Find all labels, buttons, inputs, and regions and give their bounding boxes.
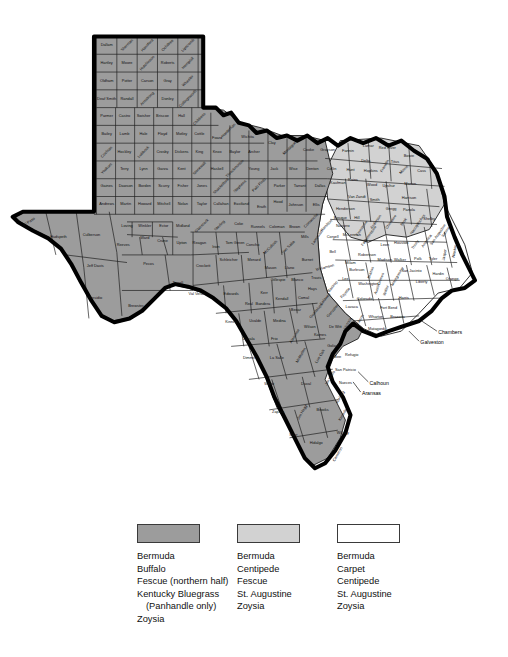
county-label: Smith xyxy=(370,197,380,202)
county-label: Henderson xyxy=(336,206,355,211)
county-label: Matagorda xyxy=(368,326,387,331)
county-label: Leon xyxy=(381,242,390,247)
county-label: Titus xyxy=(391,159,399,164)
county-label: Fannin xyxy=(342,148,354,153)
county-label: Kinney xyxy=(225,319,237,324)
calhoun-callout-label: Calhoun xyxy=(370,380,389,386)
county-label: Wood xyxy=(367,182,377,187)
list-item: Zoysia xyxy=(337,600,457,613)
county-label: Culberson xyxy=(83,232,101,237)
county-label: Winkler xyxy=(138,223,152,228)
county-label: Lynn xyxy=(139,166,147,171)
county-label: Erath xyxy=(257,204,266,209)
county-label: Willacy xyxy=(337,430,349,435)
county-label: Milam xyxy=(345,260,355,265)
county-label: Van Zandt xyxy=(348,194,366,199)
county-label: Colorado xyxy=(357,296,373,301)
county-label: Refugio xyxy=(345,352,358,357)
county-label: Starr xyxy=(289,432,298,437)
county-label: Harris xyxy=(399,295,409,300)
county-label: Webb xyxy=(264,381,274,386)
county-label: Houston xyxy=(394,241,408,246)
county-label: Borden xyxy=(139,183,151,188)
county-label: Irion xyxy=(212,244,220,249)
county-label: Schleicher xyxy=(220,257,239,262)
county-label: Zavala xyxy=(243,336,255,341)
chambers-leader-line xyxy=(422,321,437,331)
county-label: Red River xyxy=(379,145,397,150)
county-label: Burnet xyxy=(302,257,314,262)
county-label: Dickens xyxy=(175,149,189,154)
county-label: Frio xyxy=(271,336,278,341)
map-legend: Bermuda Buffalo Fescue (northern half) K… xyxy=(0,524,508,657)
county-label: Navarro xyxy=(336,223,350,228)
aransas-callout-label: Aransas xyxy=(362,390,381,396)
list-item: Carpet xyxy=(337,563,457,576)
county-label: Edwards xyxy=(224,291,239,296)
list-item: St. Augustine xyxy=(337,588,457,601)
county-label: Coke xyxy=(234,221,243,226)
county-label: Young xyxy=(249,166,260,171)
county-label: Uvalde xyxy=(249,318,261,323)
county-label: Panola xyxy=(403,207,416,212)
county-label: Brazoria xyxy=(390,314,405,319)
county-label: Lavaca xyxy=(346,304,359,309)
galveston-leader-line xyxy=(409,331,419,341)
county-label: Briscoe xyxy=(156,114,169,119)
county-label: Bosque xyxy=(334,215,347,220)
legend-column-zone-c: Bermuda Carpet Centipede St. Augustine Z… xyxy=(337,524,457,613)
county-label: Hood xyxy=(274,199,283,204)
county-label: Hartley xyxy=(101,60,113,65)
county-label: Harrison xyxy=(402,195,417,200)
county-label: Tyler xyxy=(429,256,438,261)
county-label: Llano xyxy=(285,265,294,270)
county-label: Moore xyxy=(122,60,133,65)
county-label: Reagan xyxy=(193,241,207,246)
county-label: Parmer xyxy=(100,114,113,119)
county-label: Duval xyxy=(301,381,311,386)
county-label: Nolan xyxy=(178,201,188,206)
county-label: Martin xyxy=(120,201,131,206)
zone-b-swatch xyxy=(237,524,300,543)
county-label: Coryell xyxy=(327,234,339,239)
county-label: Scurry xyxy=(158,183,169,188)
county-label: De Witt xyxy=(329,324,343,329)
calhoun-leader-line xyxy=(358,372,368,382)
county-label: Real xyxy=(245,301,253,306)
county-label: Upton xyxy=(176,241,186,246)
county-label: Coleman xyxy=(269,224,284,229)
county-label: Shelby xyxy=(423,216,435,221)
county-label: Blanco xyxy=(291,277,303,282)
county-label: Parker xyxy=(274,183,286,188)
county-label: La Salle xyxy=(270,355,284,360)
county-label: Carson xyxy=(141,78,153,83)
county-label: Robertson xyxy=(358,252,376,257)
county-label: Donley xyxy=(162,96,174,101)
county-label: Wichita xyxy=(241,134,255,139)
county-label: Potter xyxy=(122,78,133,83)
county-label: Wharton xyxy=(369,314,384,319)
county-label: Delta xyxy=(361,158,371,163)
county-label: Kaufman xyxy=(330,180,345,185)
county-label: Jeff Davis xyxy=(87,263,104,268)
county-label: Menard xyxy=(247,257,260,262)
county-label: Ector xyxy=(159,223,169,228)
county-label: Dimmit xyxy=(243,355,256,360)
county-label: Comal xyxy=(298,295,309,300)
county-label: Fort Bend xyxy=(380,305,397,310)
county-label: Kerr xyxy=(261,290,269,295)
county-label: Madison xyxy=(378,257,393,262)
county-label: Swisher xyxy=(137,114,151,119)
county-label: Zapata xyxy=(272,409,285,414)
zone-a-base xyxy=(15,36,363,465)
county-label: Travis xyxy=(311,275,321,280)
county-label: Walker xyxy=(394,257,407,262)
county-label: Andrews xyxy=(99,201,114,206)
county-label: Jones xyxy=(197,183,207,188)
county-label: Mason xyxy=(265,265,277,270)
county-label: Concho xyxy=(246,242,259,247)
zone-c-swatch xyxy=(337,524,400,543)
county-label: Gillespie xyxy=(271,277,286,282)
county-label: Motley xyxy=(176,131,187,136)
county-label: Brooks xyxy=(317,407,329,412)
